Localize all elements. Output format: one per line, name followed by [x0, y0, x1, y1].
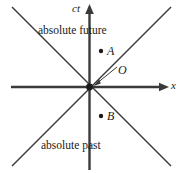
x-axis-arrowhead	[159, 83, 169, 91]
x-axis-label: x	[171, 80, 176, 91]
origin-dot	[86, 84, 93, 91]
ct-axis-label: ct	[72, 3, 80, 14]
absolute-past-label: absolute past	[41, 140, 101, 152]
ct-axis-arrowhead	[85, 4, 94, 14]
event-dot-a	[99, 49, 103, 53]
light-cone-diagram: ct x absolute future absolute past A B O	[0, 0, 186, 173]
absolute-future-label: absolute future	[38, 25, 107, 37]
event-label-a: A	[107, 45, 114, 57]
event-label-b: B	[107, 110, 114, 122]
event-dot-b	[99, 114, 103, 118]
origin-label: O	[118, 64, 127, 76]
